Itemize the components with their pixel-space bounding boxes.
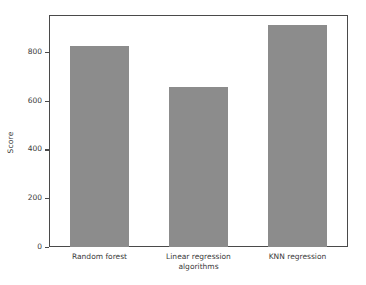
y-axis-tick-mark (45, 101, 49, 102)
bar-chart: Score 0200400600800 Random forestLinear … (0, 0, 366, 285)
y-axis-tick-mark (45, 52, 49, 53)
y-axis-tick-label: 0 (37, 242, 42, 251)
y-axis-tick-label: 200 (28, 193, 42, 202)
y-axis-tick-mark (45, 149, 49, 150)
y-axis-title: Score (0, 0, 20, 285)
y-axis-tick-label: 800 (28, 47, 42, 56)
x-axis-tick-label: KNN regression (248, 252, 347, 262)
y-axis-tick-label: 400 (28, 144, 42, 153)
y-axis-tick-mark (45, 198, 49, 199)
bar (268, 25, 327, 247)
bar (70, 46, 129, 247)
x-axis-tick-label: Linear regression algorithms (149, 252, 248, 272)
bar (169, 87, 228, 247)
x-axis-tick-label: Random forest (50, 252, 149, 262)
y-axis-tick-label: 600 (28, 96, 42, 105)
plot-area (50, 16, 347, 247)
y-axis-tick-mark (45, 247, 49, 248)
